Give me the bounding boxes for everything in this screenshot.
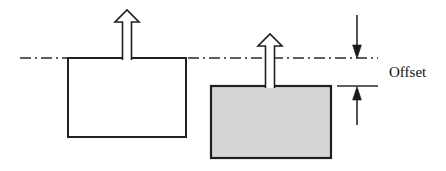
offset-upper-arrow xyxy=(353,15,362,59)
right-block-outline xyxy=(211,86,331,158)
offset-lower-arrow xyxy=(353,87,362,126)
left-block-outline xyxy=(68,58,186,137)
offset-lower-arrow-head xyxy=(353,87,362,101)
offset-diagram: Offset xyxy=(0,0,446,171)
left-block xyxy=(68,58,186,137)
offset-dimension: Offset xyxy=(337,15,427,125)
left-up-arrow xyxy=(115,10,139,62)
offset-label: Offset xyxy=(389,64,427,80)
diagram-canvas: Offset xyxy=(0,0,446,171)
right-block xyxy=(211,86,331,158)
right-arrow-outline xyxy=(258,34,282,88)
right-up-arrow xyxy=(258,34,282,90)
offset-upper-arrow-head xyxy=(353,45,362,59)
left-arrow-outline xyxy=(115,10,139,60)
